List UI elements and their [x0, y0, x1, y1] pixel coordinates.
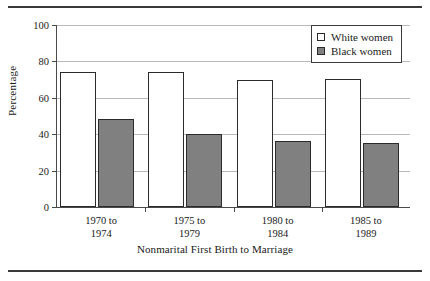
bar-group	[234, 25, 322, 207]
x-axis-category-label: 1980 to1984	[234, 214, 322, 240]
x-axis-category-line: 1984	[234, 227, 322, 240]
x-axis-category-label: 1975 to1979	[145, 214, 233, 240]
y-axis-tick-label: 40	[39, 129, 50, 140]
legend-item-white-women[interactable]: White women	[317, 30, 393, 44]
bar-white-women[interactable]	[237, 80, 273, 207]
y-axis-tick-mark	[52, 207, 57, 208]
x-axis-category-label: 1970 to1974	[57, 214, 145, 240]
y-axis-tick-label: 100	[33, 20, 49, 31]
x-axis-tick-mark	[234, 207, 235, 212]
chart-legend: White women Black women	[311, 25, 402, 63]
x-axis-category-line: 1975 to	[145, 214, 233, 227]
x-axis-category-line: 1979	[145, 227, 233, 240]
legend-swatch-white-icon	[317, 33, 325, 41]
x-axis-tick-mark	[145, 207, 146, 212]
bar-chart: Percentage 020406080100 Nonmarital First…	[0, 0, 430, 281]
x-axis-category-line: 1974	[57, 227, 145, 240]
y-axis-title: Percentage	[6, 66, 18, 116]
bar-group	[145, 25, 233, 207]
legend-swatch-gray-icon	[317, 47, 325, 55]
y-axis-tick-label: 60	[39, 92, 50, 103]
bar-white-women[interactable]	[60, 72, 96, 207]
x-axis-category-label: 1985 to1989	[322, 214, 410, 240]
bar-group	[57, 25, 145, 207]
x-axis-tick-mark	[322, 207, 323, 212]
bar-black-women[interactable]	[275, 141, 311, 207]
bar-black-women[interactable]	[98, 119, 134, 207]
bar-black-women[interactable]	[186, 134, 222, 207]
x-axis-category-line: 1970 to	[57, 214, 145, 227]
x-axis-category-line: 1980 to	[234, 214, 322, 227]
x-axis-category-line: 1989	[322, 227, 410, 240]
bar-white-women[interactable]	[325, 79, 361, 207]
x-axis-category-line: 1985 to	[322, 214, 410, 227]
legend-item-black-women[interactable]: Black women	[317, 44, 393, 58]
legend-label-white-women: White women	[331, 31, 393, 43]
x-axis-title: Nonmarital First Birth to Marriage	[0, 243, 430, 255]
bar-black-women[interactable]	[363, 143, 399, 207]
legend-label-black-women: Black women	[331, 45, 392, 57]
bar-white-women[interactable]	[148, 72, 184, 207]
y-axis-tick-label: 0	[44, 202, 49, 213]
figure-bottom-rule	[8, 270, 422, 272]
y-axis-tick-label: 80	[39, 56, 50, 67]
y-axis-tick-label: 20	[39, 165, 50, 176]
